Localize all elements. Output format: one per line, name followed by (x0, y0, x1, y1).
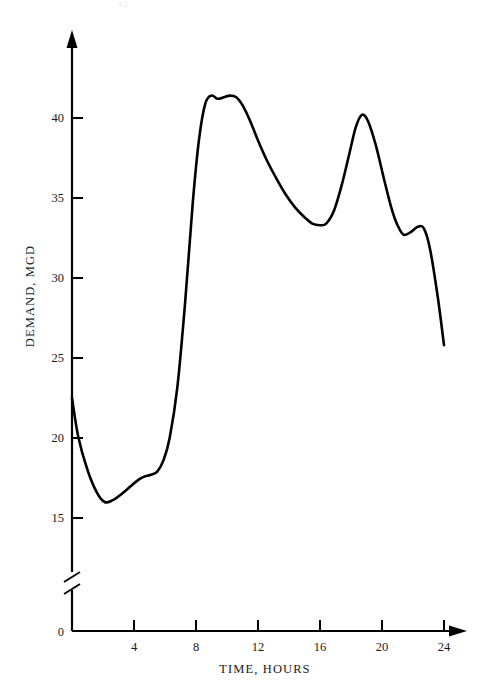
x-tick-label-20: 20 (376, 640, 389, 654)
x-axis-arrowhead (449, 626, 467, 637)
y-tick-label-20: 20 (52, 431, 65, 445)
demand-vs-time-chart: 40 35 30 25 20 15 0 4 8 12 16 20 24 TIME… (0, 0, 484, 686)
y-tick-marks (72, 118, 83, 518)
x-tick-label-12: 12 (252, 640, 265, 654)
y-tick-label-25: 25 (52, 351, 65, 365)
y-tick-label-40: 40 (52, 111, 65, 125)
demand-curve-line (72, 95, 444, 502)
figure-root: 42 40 35 30 25 20 15 0 (0, 0, 484, 686)
y-tick-label-35: 35 (52, 191, 65, 205)
x-tick-label-4: 4 (131, 640, 138, 654)
x-tick-marks (134, 620, 444, 631)
y-origin-label-0: 0 (58, 625, 64, 639)
y-tick-label-15: 15 (52, 511, 65, 525)
x-axis-title: TIME, HOURS (219, 662, 310, 676)
y-axis-title: DEMAND, MGD (23, 245, 37, 347)
x-tick-label-24: 24 (438, 640, 451, 654)
y-axis-arrowhead (67, 30, 78, 48)
y-tick-label-30: 30 (52, 271, 65, 285)
x-tick-label-8: 8 (193, 640, 199, 654)
x-tick-label-16: 16 (314, 640, 327, 654)
y-axis-break-icon (64, 572, 80, 582)
